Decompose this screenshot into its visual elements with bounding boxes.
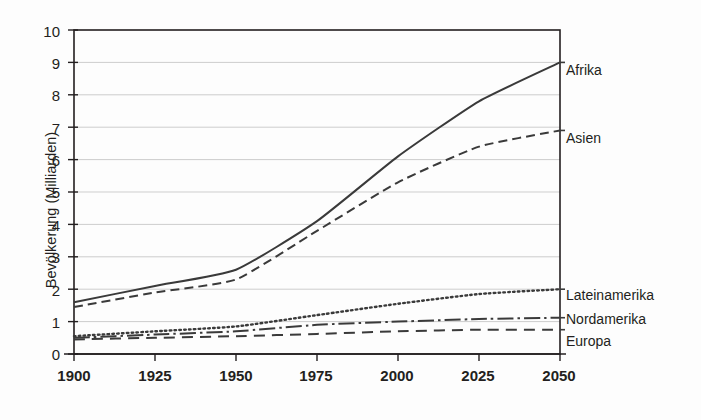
plot-canvas [0, 0, 701, 420]
grid-lines [74, 30, 560, 354]
axis-ticks [68, 30, 560, 361]
series-line-afrika [74, 62, 560, 302]
series-line-asien [74, 130, 560, 307]
series-line-lateinamerika [74, 289, 560, 336]
population-line-chart: Bevölkerung (Milliarden) 10 9 8 7 6 5 4 … [0, 0, 701, 420]
data-series-group [74, 62, 565, 339]
